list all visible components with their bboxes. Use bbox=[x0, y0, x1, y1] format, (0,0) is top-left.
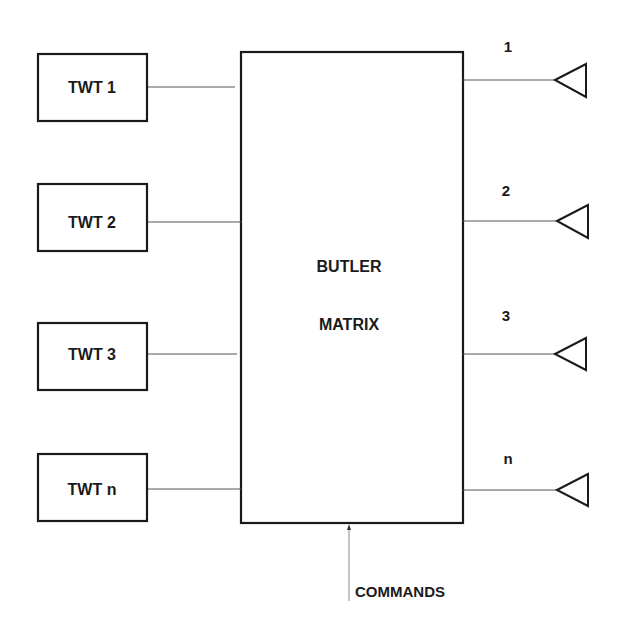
output-label: 2 bbox=[502, 182, 510, 199]
output-port-3: 3 bbox=[463, 307, 586, 370]
matrix-rectangle bbox=[241, 52, 463, 523]
antenna-triangle-icon bbox=[555, 64, 586, 97]
butler-matrix-block: BUTLER MATRIX bbox=[241, 52, 463, 523]
antenna-triangle-icon bbox=[557, 205, 588, 238]
output-port-1: 1 bbox=[463, 38, 586, 97]
matrix-label-line1: BUTLER bbox=[317, 258, 382, 275]
twt-input-2: TWT 2 bbox=[38, 184, 241, 251]
output-label: 3 bbox=[502, 307, 510, 324]
twt-label: TWT 2 bbox=[68, 214, 116, 231]
commands-input: COMMANDS bbox=[347, 524, 445, 601]
antenna-triangle-icon bbox=[555, 338, 586, 370]
antenna-triangle-icon bbox=[557, 474, 588, 506]
output-label: n bbox=[503, 450, 512, 467]
twt-label: TWT 1 bbox=[68, 79, 116, 96]
output-label: 1 bbox=[504, 38, 512, 55]
twt-input-3: TWT 3 bbox=[38, 323, 237, 390]
output-port-2: 2 bbox=[463, 182, 588, 238]
twt-label: TWT 3 bbox=[68, 346, 116, 363]
arrowhead-up-icon bbox=[347, 524, 351, 530]
matrix-label-line2: MATRIX bbox=[319, 316, 379, 333]
twt-input-n: TWT n bbox=[38, 454, 241, 521]
commands-label: COMMANDS bbox=[355, 583, 445, 600]
twt-label: TWT n bbox=[68, 481, 117, 498]
twt-input-1: TWT 1 bbox=[38, 54, 235, 121]
output-port-n: n bbox=[463, 450, 588, 506]
butler-matrix-diagram: BUTLER MATRIX TWT 1 TWT 2 TWT 3 TWT n 1 … bbox=[0, 0, 617, 633]
